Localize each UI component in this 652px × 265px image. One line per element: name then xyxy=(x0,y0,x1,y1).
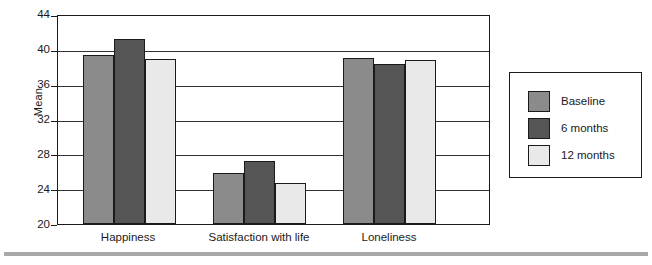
legend-label-12months: 12 months xyxy=(561,149,615,161)
y-tick-mark-28 xyxy=(51,155,57,156)
y-tick-label: 28 xyxy=(24,149,50,161)
footer-caption-clip xyxy=(22,259,422,265)
legend-item-baseline: Baseline xyxy=(528,90,605,112)
bar-chart-figure: Mean 44 40 36 32 28 24 20 xyxy=(0,0,652,265)
legend-label-6months: 6 months xyxy=(561,122,608,134)
plot-area xyxy=(57,15,490,225)
legend-swatch-6months xyxy=(528,118,550,139)
y-tick-mark-40 xyxy=(51,51,57,52)
y-tick-label: 20 xyxy=(24,219,50,231)
x-axis-label-loneliness: Loneliness xyxy=(362,231,417,243)
bar-loneliness-6months xyxy=(374,64,405,224)
legend-swatch-12months xyxy=(528,145,550,166)
bar-satisfaction-6months xyxy=(244,161,275,224)
y-tick-label: 32 xyxy=(24,114,50,126)
y-tick-label: 40 xyxy=(24,44,50,56)
y-tick-label: 36 xyxy=(24,79,50,91)
legend-item-12months: 12 months xyxy=(528,144,615,166)
bar-happiness-baseline xyxy=(83,55,114,224)
y-tick-mark-36 xyxy=(51,86,57,87)
bar-satisfaction-12months xyxy=(275,183,306,224)
plot-inner xyxy=(58,16,489,224)
bar-loneliness-12months xyxy=(405,60,436,225)
x-axis-label-happiness: Happiness xyxy=(101,231,155,243)
y-tick-mark-32 xyxy=(51,121,57,122)
y-axis-tick-labels: 44 40 36 32 28 24 20 xyxy=(18,15,50,225)
y-tick-label: 44 xyxy=(24,9,50,21)
legend-swatch-baseline xyxy=(528,91,550,112)
y-tick-mark-24 xyxy=(51,190,57,191)
bar-happiness-12months xyxy=(145,59,176,224)
x-axis-label-satisfaction: Satisfaction with life xyxy=(209,231,310,243)
legend: Baseline 6 months 12 months xyxy=(509,72,642,178)
legend-label-baseline: Baseline xyxy=(561,95,605,107)
y-tick-mark-44 xyxy=(51,16,57,17)
legend-item-6months: 6 months xyxy=(528,117,608,139)
bar-loneliness-baseline xyxy=(343,58,374,224)
footer-divider xyxy=(4,252,648,256)
bar-happiness-6months xyxy=(114,39,145,225)
y-tick-mark-20 xyxy=(51,225,57,226)
y-tick-label: 24 xyxy=(24,184,50,196)
bar-satisfaction-baseline xyxy=(213,173,244,224)
